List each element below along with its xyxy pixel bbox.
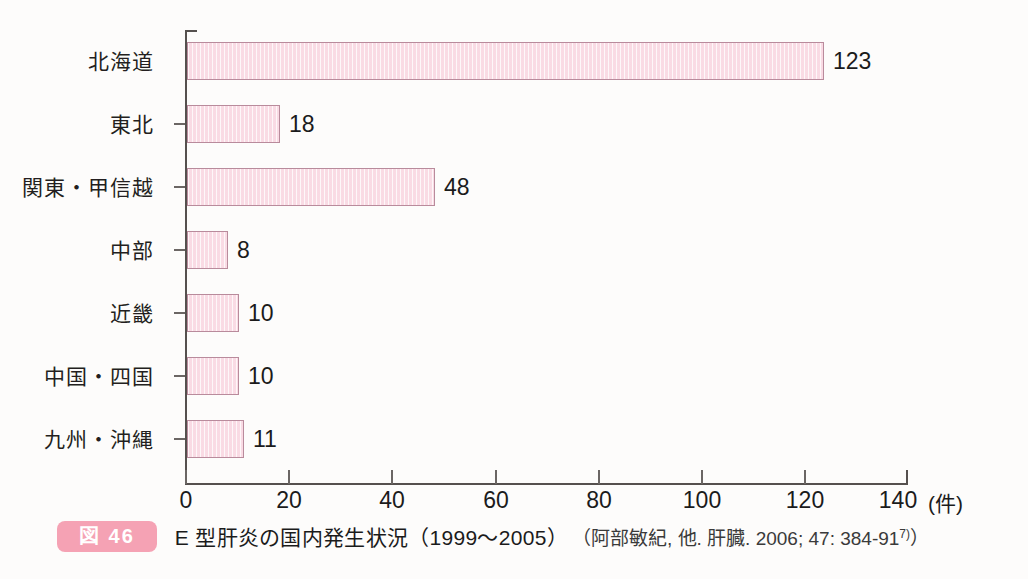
source-prefix: （阿部敏紀, 他. 肝臓. 2006; 47: 384-91 <box>572 528 899 549</box>
bar <box>187 42 824 80</box>
bar-value-label: 18 <box>280 105 315 143</box>
bar-value-label: 48 <box>435 168 470 206</box>
category-label: 中国・四国 <box>0 345 168 408</box>
x-axis-line <box>185 483 908 485</box>
category-label: 近畿 <box>0 282 168 345</box>
bar-value-label: 11 <box>244 420 277 458</box>
bar-row-kyushu-okinawa: 九州・沖縄 11 <box>0 408 1028 471</box>
bar-row-chubu: 中部 8 <box>0 219 1028 282</box>
figure-caption: 図 46 E 型肝炎の国内発生状況（1999〜2005） （阿部敏紀, 他. 肝… <box>0 515 1028 557</box>
x-axis-tick <box>598 470 600 484</box>
bar-value-label: 10 <box>239 357 274 395</box>
bar <box>187 294 239 332</box>
bar-row-tohoku: 東北 18 <box>0 93 1028 156</box>
x-axis-tick <box>804 470 806 484</box>
x-axis-end-cap <box>906 470 908 485</box>
x-tick-label: 0 <box>180 487 193 514</box>
figure-number-badge: 図 46 <box>57 521 157 552</box>
bar-row-hokkaido: 北海道 123 <box>0 30 1028 93</box>
figure-caption-title: E 型肝炎の国内発生状況（1999〜2005） <box>175 521 568 551</box>
source-reference-number: 7) <box>899 526 910 540</box>
bar <box>187 231 228 269</box>
category-label: 中部 <box>0 219 168 282</box>
category-label: 関東・甲信越 <box>0 156 168 219</box>
x-tick-label: 20 <box>276 487 302 514</box>
figure-caption-source: （阿部敏紀, 他. 肝臓. 2006; 47: 384-917)） <box>572 523 929 550</box>
bar-value-label: 123 <box>824 42 871 80</box>
source-suffix: ） <box>910 528 929 549</box>
x-axis-tick <box>391 470 393 484</box>
category-label: 東北 <box>0 93 168 156</box>
x-tick-label: 100 <box>683 487 721 514</box>
x-axis-tick <box>288 470 290 484</box>
bar-chart-plot-area: 北海道 123 東北 18 関東・甲信越 48 中部 8 <box>0 0 1028 500</box>
x-axis-tick <box>495 470 497 484</box>
bar <box>187 105 280 143</box>
category-label: 九州・沖縄 <box>0 408 168 471</box>
bar-value-label: 10 <box>239 294 274 332</box>
figure-e-hepatitis-domestic-cases: 北海道 123 東北 18 関東・甲信越 48 中部 8 <box>0 0 1028 579</box>
bar <box>187 168 435 206</box>
bar-row-chugoku-shikoku: 中国・四国 10 <box>0 345 1028 408</box>
x-axis-unit-label: (件) <box>928 487 963 517</box>
bar-row-kanto-koshinetsu: 関東・甲信越 48 <box>0 156 1028 219</box>
x-tick-label: 80 <box>586 487 612 514</box>
category-label: 北海道 <box>0 30 168 93</box>
x-tick-label: 140 <box>879 487 917 514</box>
x-tick-label: 60 <box>483 487 509 514</box>
x-tick-label: 120 <box>786 487 824 514</box>
bar-value-label: 8 <box>228 231 250 269</box>
x-tick-label: 40 <box>379 487 405 514</box>
bar-row-kinki: 近畿 10 <box>0 282 1028 345</box>
bar <box>187 357 239 395</box>
x-axis-tick <box>701 470 703 484</box>
bar <box>187 420 244 458</box>
x-axis-tick <box>185 470 187 484</box>
